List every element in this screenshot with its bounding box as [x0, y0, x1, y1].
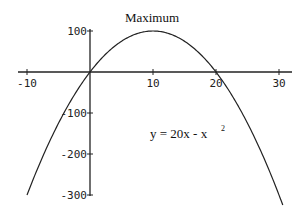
y-axis-ticks: 100-100-200-300 [61, 25, 94, 202]
y-tick-label: -200 [61, 148, 88, 161]
y-tick-label: 100 [67, 25, 87, 38]
parabola-chart: -10102030 100-100-200-300 Maximum y = 20… [0, 0, 308, 210]
x-tick-label: -10 [17, 77, 37, 90]
equation-label: y = 20x - x [150, 126, 208, 141]
y-tick-label: -300 [61, 189, 88, 202]
x-tick-label: 10 [146, 77, 159, 90]
y-tick-label: -100 [61, 107, 88, 120]
equation-base: y = 20x - x [150, 126, 208, 141]
x-tick-label: 30 [272, 77, 285, 90]
chart-title: Maximum [125, 10, 179, 25]
equation-exponent: 2 [221, 124, 225, 133]
